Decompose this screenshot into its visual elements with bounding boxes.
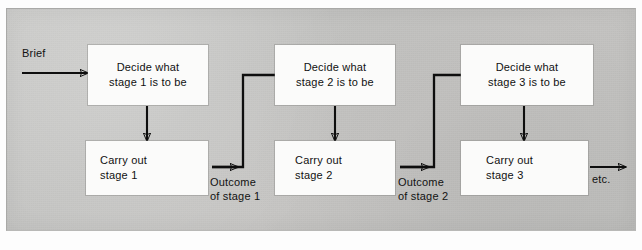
node-carry-out-stage-2: Carry out stage 2	[275, 141, 395, 195]
label-etc: etc.	[592, 172, 611, 186]
node-decide-stage-2: Decide what stage 2 is to be	[275, 45, 395, 105]
flow-diagram-figure: Decide what stage 1 is to be Carry out s…	[0, 0, 642, 250]
label-outcome-of-stage-2: Outcome of stage 2	[398, 175, 448, 203]
connector-carry2-to-decide3	[400, 75, 461, 167]
node-carry-out-stage-1: Carry out stage 1	[86, 141, 208, 195]
label-outcome-of-stage-1: Outcome of stage 1	[210, 175, 260, 203]
connector-carry1-to-decide2	[212, 75, 275, 167]
label-brief: Brief	[22, 46, 46, 60]
node-decide-stage-1: Decide what stage 1 is to be	[88, 45, 208, 105]
node-carry-out-stage-3: Carry out stage 3	[461, 141, 588, 195]
node-decide-stage-3: Decide what stage 3 is to be	[461, 45, 593, 105]
connector-layer	[0, 0, 642, 250]
